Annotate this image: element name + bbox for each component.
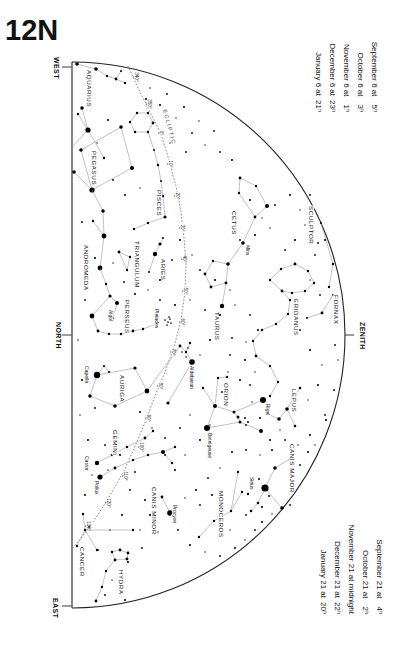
field-star-dot [81, 379, 83, 381]
ecliptic-degree-label: 40° [182, 256, 187, 263]
field-star-dot [297, 444, 298, 445]
star-dot [108, 371, 110, 373]
constellation-fornax: FORNAX [306, 294, 340, 324]
star-dot [258, 478, 260, 480]
star-dot [162, 237, 164, 239]
field-star-dot [309, 349, 311, 351]
field-star-dot [244, 359, 246, 361]
star-name-label: Procyon [172, 505, 178, 524]
field-star-dot [175, 117, 176, 118]
cluster-dot [170, 322, 172, 324]
star-dot [217, 377, 219, 379]
constellation-label: SCULPTOR [308, 206, 315, 244]
star-dot [126, 269, 128, 271]
star-dot [158, 242, 161, 245]
star-dot [247, 421, 249, 423]
cluster-dot [169, 318, 171, 320]
field-star-dot [317, 384, 319, 386]
constellation-line [203, 388, 215, 406]
field-star-dot [234, 304, 235, 305]
star-dot [269, 365, 271, 367]
star-dot [317, 242, 319, 244]
field-star-dot [189, 414, 190, 415]
compass-label-zenith: ZENITH [359, 322, 366, 350]
star-dot [119, 125, 123, 129]
star-dot [294, 263, 297, 266]
field-star-dot [245, 341, 246, 342]
star-dot [111, 551, 113, 553]
ecliptic-degree-label: 110° [123, 471, 128, 480]
field-star-dot [77, 339, 78, 340]
constellation-line [307, 295, 333, 318]
field-star-dot [204, 144, 205, 145]
ecliptic-degree-label: 50° [183, 288, 188, 295]
field-star-dot [234, 547, 236, 549]
ecliptic-degree-label: 20° [175, 193, 180, 200]
star-chart-page: 12N 340°350°0°10°20°30°40°50°60°70°80°90… [0, 0, 402, 657]
constellation-eridanus: ERIDANUS [252, 263, 315, 398]
field-star-dot [164, 454, 166, 456]
star-dot [153, 149, 155, 151]
field-star-dot [139, 411, 141, 413]
field-star-dot [284, 249, 286, 251]
field-star-dot [209, 424, 210, 425]
constellation-line [239, 178, 267, 217]
star-dot [101, 586, 103, 588]
field-star-dot [104, 444, 106, 446]
field-star-dot [229, 289, 230, 290]
field-star-dot [259, 417, 261, 419]
field-star-dot [147, 289, 148, 290]
field-star-dot [314, 444, 315, 445]
field-star-dot [321, 364, 322, 365]
field-star-dot [219, 151, 221, 153]
star-dot [252, 340, 254, 342]
field-star-dot [183, 106, 185, 108]
top-date-entry: November 6 at 1h [342, 44, 351, 112]
star-dot [97, 330, 100, 333]
constellation-label: CANIS MINOR [151, 487, 158, 535]
field-star-dot [257, 329, 259, 331]
constellation-aries: ARIES [148, 237, 167, 281]
field-star-dot [184, 454, 185, 455]
field-star-dot [179, 427, 181, 429]
field-star-dot [261, 217, 262, 218]
star-dot [320, 222, 322, 224]
field-star-dot [239, 379, 241, 381]
ecliptic-label: ECLIPTIC [162, 109, 177, 146]
field-star-dot [271, 449, 273, 451]
constellation-monoceros: MONOCEROS [198, 471, 243, 538]
star-dot [161, 496, 164, 499]
field-star-dot [279, 429, 280, 430]
star-dot [332, 263, 334, 265]
star-dot [114, 467, 117, 470]
star-dot [289, 299, 291, 301]
star-dot [115, 78, 118, 81]
star-dot [185, 356, 187, 358]
constellation-line [93, 221, 104, 236]
field-star-dot [87, 439, 89, 441]
field-star-dot [171, 259, 173, 261]
field-star-dot [159, 299, 161, 301]
constellation-line [130, 113, 153, 132]
star-dot [204, 273, 207, 276]
field-star-dot [309, 194, 311, 196]
star-name-label: Castor [84, 456, 90, 471]
star-dot [118, 251, 121, 254]
field-star-dot [229, 529, 230, 530]
star-dot [265, 204, 269, 208]
star-dot [260, 397, 266, 403]
field-star-dot [84, 299, 86, 301]
star-dot [132, 529, 134, 531]
constellation-line [116, 71, 121, 79]
star-dot [77, 113, 79, 115]
star-dot [120, 70, 122, 72]
constellation-line [265, 488, 282, 508]
star-name-label: Rigel [265, 404, 271, 415]
field-star-dot [219, 555, 221, 557]
field-star-dot [127, 561, 129, 563]
star-dot [161, 450, 165, 454]
star-dot [88, 394, 92, 398]
ecliptic-degree-label: 30° [180, 225, 185, 232]
field-star-dot [231, 451, 233, 453]
star-dot [95, 461, 99, 465]
